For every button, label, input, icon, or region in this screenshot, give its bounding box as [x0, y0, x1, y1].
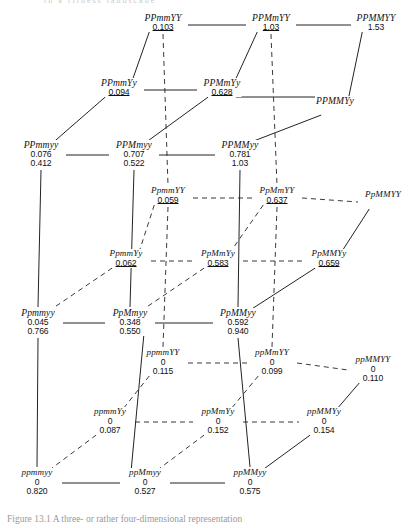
- node-value-primary: 0.628: [204, 88, 241, 97]
- node-value-secondary: 0.154: [307, 426, 341, 435]
- node-value-secondary: 0.110: [356, 374, 391, 383]
- node-value-secondary: 0.820: [22, 487, 53, 496]
- node-value-primary: 1.03: [252, 23, 290, 32]
- node-value-primary: 1.53: [357, 23, 396, 32]
- node-value-primary: 0.094: [101, 88, 137, 97]
- node-value-primary: 0.059: [151, 196, 185, 205]
- node-ppMMYy[interactable]: ppMMYy 0 0.154: [306, 407, 342, 435]
- node-ppmmYy[interactable]: ppmmYy 0 0.087: [93, 407, 127, 435]
- node-PPmmYy[interactable]: PPmmYy 0.094: [100, 78, 138, 97]
- node-PPMmYy[interactable]: PPMmYy 0.628: [203, 78, 242, 97]
- node-PpMMYy[interactable]: PpMMYy 0.659: [311, 249, 348, 268]
- node-ppMmYY[interactable]: ppMmYY 0 0.099: [254, 348, 290, 376]
- node-genotype-label: PPMMYy: [316, 96, 354, 106]
- node-value-secondary: 1.03: [222, 159, 259, 168]
- node-ppMMYY[interactable]: ppMMYY 0 0.110: [355, 355, 392, 383]
- node-PpMMyy[interactable]: PpMMyy 0.592 0.940: [219, 308, 257, 336]
- node-Ppmmyy[interactable]: Ppmmyy 0.045 0.766: [20, 308, 56, 336]
- figure-caption-bottom-fragment: Figure 13.1 A three- or rather four-dime…: [7, 514, 242, 527]
- node-value-secondary: 0.099: [255, 367, 289, 376]
- node-value-secondary: 0.152: [202, 426, 235, 435]
- node-ppmmYY[interactable]: ppmmYY 0 0.115: [146, 348, 181, 376]
- node-value-secondary: 0.522: [116, 159, 152, 168]
- node-ppMmyy[interactable]: ppMmyy 0 0.527: [128, 468, 162, 496]
- node-PPmmyy[interactable]: PPmmyy 0.076 0.412: [23, 140, 60, 168]
- node-PpMmYY[interactable]: PpMmYY 0.637: [259, 186, 296, 205]
- node-PpmmYY[interactable]: PpmmYY 0.059: [150, 186, 186, 205]
- node-value-secondary: 0.087: [94, 426, 126, 435]
- node-PPmmYY[interactable]: PPmmYY 0.103: [144, 13, 183, 32]
- node-PPMmyy[interactable]: PPMmyy 0.707 0.522: [115, 140, 153, 168]
- node-value-secondary: 0.115: [147, 367, 180, 376]
- node-PpMMYY[interactable]: PpMMYY: [364, 190, 402, 200]
- node-value-secondary: 0.940: [220, 327, 256, 336]
- node-PPMMYY[interactable]: PPMMYY 1.53: [356, 13, 397, 32]
- node-value-secondary: 0.550: [113, 327, 148, 336]
- node-value-primary: 0.659: [312, 259, 347, 268]
- node-value-primary: 0.062: [110, 259, 143, 268]
- node-ppmmyy[interactable]: ppmmyy 0 0.820: [21, 468, 54, 496]
- node-PPMMyy[interactable]: PPMMyy 0.781 1.03: [221, 140, 260, 168]
- node-PPMMYy[interactable]: PPMMYy: [315, 96, 355, 106]
- node-value-secondary: 0.575: [234, 487, 267, 496]
- node-value-primary: 0.637: [260, 196, 295, 205]
- genotype-lattice-figure: in a fitness landscape PPmmYY 0.103 PPMm…: [0, 0, 420, 528]
- node-value-secondary: 0.766: [21, 327, 55, 336]
- node-PPMmYY[interactable]: PPMmYY 1.03: [251, 13, 291, 32]
- node-value-primary: 0.103: [145, 23, 182, 32]
- node-PpMmYy[interactable]: PpMmYy 0.583: [200, 249, 236, 268]
- node-PpMmyy[interactable]: PpMmyy 0.348 0.550: [112, 308, 149, 336]
- node-ppMMyy[interactable]: ppMMyy 0 0.575: [233, 468, 268, 496]
- node-value-primary: 0.583: [201, 259, 235, 268]
- node-value-secondary: 0.412: [24, 159, 59, 168]
- node-genotype-label: PpMMYY: [365, 190, 401, 200]
- node-ppMmYy[interactable]: ppMmYy 0 0.152: [201, 407, 236, 435]
- node-PpmmYy[interactable]: PpmmYy 0.062: [109, 249, 144, 268]
- node-value-secondary: 0.527: [129, 487, 161, 496]
